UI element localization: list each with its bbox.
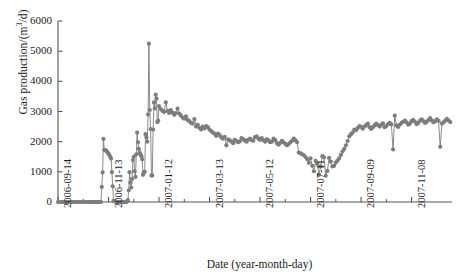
data-point — [100, 185, 104, 189]
x-axis-title: Date (year-month-day) — [0, 258, 463, 270]
data-point — [126, 198, 130, 202]
data-point — [136, 140, 140, 144]
x-tick-label: 2007-01-12 — [163, 159, 174, 208]
data-point — [164, 100, 168, 104]
data-point — [145, 140, 149, 144]
data-point — [140, 157, 144, 161]
data-point — [151, 128, 155, 132]
data-point — [133, 169, 137, 173]
data-point — [366, 121, 370, 125]
y-tick-label: 0 — [12, 195, 52, 207]
data-point — [342, 147, 346, 151]
data-point — [156, 118, 160, 122]
y-axis-title-suffix: /d) — [17, 9, 29, 22]
x-axis-title-text: Date (year-month-day) — [151, 258, 312, 270]
x-tick-label: 2007-09-09 — [365, 159, 376, 208]
data-point — [307, 161, 311, 165]
data-point — [251, 139, 255, 143]
x-tick-label: 2007-11-08 — [416, 159, 427, 208]
data-point — [346, 139, 350, 143]
data-point — [143, 170, 147, 174]
plot-area — [0, 0, 463, 279]
data-point — [147, 42, 151, 46]
data-point — [129, 185, 133, 189]
y-tick-label: 1000 — [12, 165, 52, 177]
x-tick-label: 2006-11-13 — [113, 159, 124, 208]
data-point — [148, 108, 152, 112]
x-tick-label: 2007-05-12 — [264, 159, 275, 208]
data-point — [154, 93, 158, 97]
data-point — [391, 147, 395, 151]
data-point — [175, 106, 179, 110]
data-point — [153, 106, 157, 110]
data-point — [438, 145, 442, 149]
y-axis-title-prefix: Gas production/(m — [17, 26, 29, 114]
gas-production-chart: 0100020003000400050006000 2006-09-142006… — [0, 0, 463, 279]
data-point — [137, 147, 141, 151]
x-tick-label: 2006-09-14 — [62, 159, 73, 208]
data-point — [339, 153, 343, 157]
data-point — [308, 156, 312, 160]
data-point — [127, 170, 131, 174]
x-tick-label: 2007-03-13 — [214, 159, 225, 208]
data-point — [191, 121, 195, 125]
y-axis-title-exponent: 3 — [15, 22, 24, 26]
x-tick-label: 2007-07-11 — [315, 159, 326, 208]
x-tick-marks — [58, 197, 412, 202]
data-point — [393, 114, 397, 118]
data-point — [133, 175, 137, 179]
data-point — [144, 135, 148, 139]
y-axis-title: Gas production/(m3/d) — [15, 0, 31, 137]
data-point — [150, 173, 154, 177]
data-point — [344, 143, 348, 147]
data-point — [184, 114, 188, 118]
data-point — [329, 159, 333, 163]
data-point — [223, 135, 227, 139]
data-point — [310, 164, 314, 168]
data-point — [128, 181, 132, 185]
data-point — [101, 137, 105, 141]
data-point — [99, 200, 103, 204]
data-point — [101, 170, 105, 174]
data-point — [152, 100, 156, 104]
data-point — [295, 140, 299, 144]
data-point — [448, 120, 452, 124]
data-point — [381, 121, 385, 125]
data-point — [436, 119, 440, 123]
data-point — [192, 117, 196, 121]
data-point — [154, 96, 158, 100]
data-point — [224, 143, 228, 147]
data-point — [389, 122, 393, 126]
data-point — [327, 156, 331, 160]
data-point — [146, 112, 150, 116]
data-point — [135, 131, 139, 135]
